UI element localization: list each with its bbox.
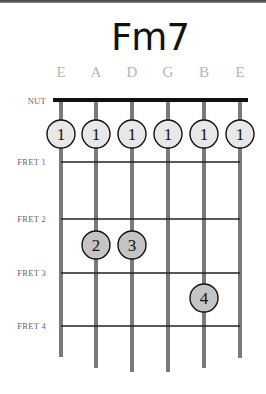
- finger-number: 1: [164, 125, 173, 144]
- finger-number: 3: [128, 236, 137, 255]
- fretboard: 111111234: [0, 0, 266, 394]
- finger-number: 1: [200, 125, 209, 144]
- finger-number: 4: [200, 289, 209, 308]
- finger-number: 2: [92, 236, 101, 255]
- finger-number: 1: [57, 125, 66, 144]
- finger-number: 1: [236, 125, 245, 144]
- finger-number: 1: [128, 125, 137, 144]
- finger-number: 1: [92, 125, 101, 144]
